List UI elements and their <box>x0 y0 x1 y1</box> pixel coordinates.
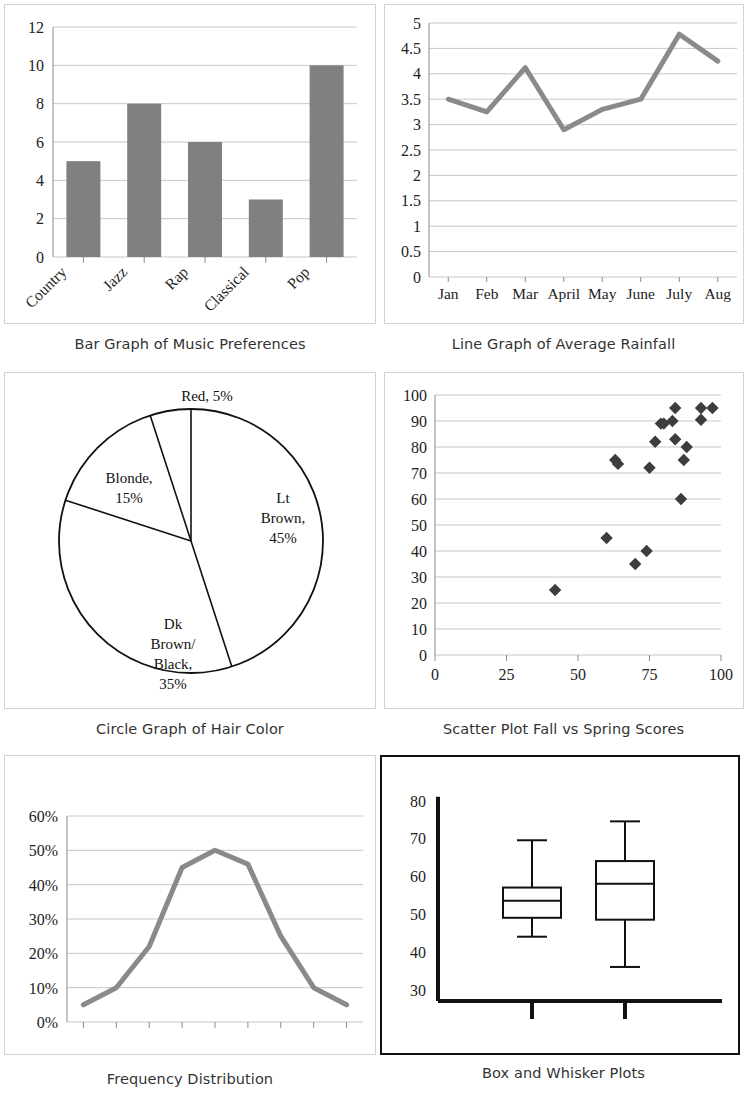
scatter-y-tick-label: 100 <box>403 387 427 404</box>
scatter-point <box>643 462 655 474</box>
bar-category-label: Jazz <box>99 263 130 294</box>
bar-chart-caption: Bar Graph of Music Preferences <box>0 336 380 352</box>
pie-chart-panel: LtBrown,45%DkBrown/Black,35%Blonde,15%Re… <box>4 372 376 709</box>
bar-rect <box>310 65 344 257</box>
boxplot-svg: 304050607080 <box>382 757 738 1053</box>
line-x-tick-label: July <box>666 285 692 302</box>
boxplot-y-tick-label: 30 <box>410 982 426 999</box>
line-y-tick-label: 0.5 <box>401 243 421 260</box>
frequency-y-tick-label: 60% <box>29 808 58 825</box>
bar-y-tick-label: 4 <box>36 172 44 189</box>
line-y-tick-label: 0 <box>413 269 421 286</box>
scatter-point <box>549 584 561 596</box>
pie-slice-label-line: Lt <box>276 490 290 506</box>
pie-slice-label-line: Red, 5% <box>181 388 233 404</box>
scatter-point <box>669 433 681 445</box>
frequency-series-path <box>83 850 346 1005</box>
scatter-point <box>678 454 690 466</box>
scatter-y-tick-label: 0 <box>419 647 427 664</box>
scatter-chart-svg: 01020304050607080901000255075100 <box>385 373 744 709</box>
cell-bar: 024681012CountryJazzRapClassicalPop Bar … <box>0 0 380 368</box>
frequency-chart-svg: 0%10%20%30%40%50%60% <box>5 756 376 1055</box>
scatter-point <box>695 402 707 414</box>
scatter-y-tick-label: 30 <box>411 569 427 586</box>
cell-boxplot: 304050607080 Box and Whisker Plots <box>380 753 747 1102</box>
boxplot-box <box>503 888 561 918</box>
scatter-point <box>629 558 641 570</box>
bar-y-tick-label: 0 <box>36 249 44 266</box>
frequency-y-tick-label: 0% <box>37 1014 58 1031</box>
bar-y-tick-label: 6 <box>36 134 44 151</box>
scatter-y-tick-label: 50 <box>411 517 427 534</box>
bar-y-tick-label: 8 <box>36 95 44 112</box>
scatter-x-tick-label: 75 <box>642 666 658 683</box>
cell-line: 00.511.522.533.544.55JanFebMarAprilMayJu… <box>380 0 747 368</box>
cell-scatter: 01020304050607080901000255075100 Scatter… <box>380 368 747 753</box>
pie-slice-label-line: Brown/ <box>151 636 197 652</box>
boxplot-caption: Box and Whisker Plots <box>380 1065 747 1081</box>
boxplot-box <box>596 861 654 920</box>
pie-slice-label-line: Brown, <box>261 510 306 526</box>
scatter-y-tick-label: 80 <box>411 439 427 456</box>
cell-pie: LtBrown,45%DkBrown/Black,35%Blonde,15%Re… <box>0 368 380 753</box>
frequency-y-tick-label: 10% <box>29 980 58 997</box>
bar-y-tick-label: 10 <box>28 57 44 74</box>
boxplot-y-tick-label: 50 <box>410 906 426 923</box>
line-y-tick-label: 5 <box>413 15 421 32</box>
scatter-y-tick-label: 10 <box>411 621 427 638</box>
scatter-point <box>649 436 661 448</box>
scatter-point <box>706 402 718 414</box>
frequency-y-tick-label: 30% <box>29 911 58 928</box>
bar-rect <box>127 104 161 257</box>
line-x-tick-label: Feb <box>475 285 499 302</box>
line-x-tick-label: Jan <box>438 285 459 302</box>
frequency-chart-caption: Frequency Distribution <box>0 1071 380 1087</box>
scatter-chart-caption: Scatter Plot Fall vs Spring Scores <box>380 721 747 737</box>
pie-slice-label-line: 15% <box>115 490 143 506</box>
line-y-tick-label: 2.5 <box>401 142 421 159</box>
bar-chart-panel: 024681012CountryJazzRapClassicalPop <box>4 4 376 324</box>
scatter-y-tick-label: 60 <box>411 491 427 508</box>
scatter-y-tick-label: 70 <box>411 465 427 482</box>
line-y-tick-label: 3 <box>413 116 421 133</box>
scatter-y-tick-label: 20 <box>411 595 427 612</box>
boxplot-y-tick-label: 70 <box>410 830 426 847</box>
scatter-x-tick-label: 25 <box>499 666 515 683</box>
bar-y-tick-label: 2 <box>36 210 44 227</box>
bar-chart-svg: 024681012CountryJazzRapClassicalPop <box>5 5 376 324</box>
boxplot-y-tick-label: 40 <box>410 944 426 961</box>
scatter-x-tick-label: 50 <box>570 666 586 683</box>
scatter-y-tick-label: 90 <box>411 413 427 430</box>
pie-slice-label-line: Dk <box>164 616 183 632</box>
scatter-point <box>640 545 652 557</box>
line-x-tick-label: Aug <box>704 285 731 302</box>
line-y-tick-label: 3.5 <box>401 91 421 108</box>
pie-slice-label-line: 35% <box>159 676 187 692</box>
bar-category-label: Rap <box>161 263 191 293</box>
scatter-chart-panel: 01020304050607080901000255075100 <box>384 372 744 709</box>
boxplot-y-tick-label: 60 <box>410 868 426 885</box>
scatter-x-tick-label: 100 <box>709 666 733 683</box>
bar-rect <box>249 200 283 258</box>
scatter-point <box>681 441 693 453</box>
pie-slice-label: Red, 5% <box>181 388 233 404</box>
scatter-point <box>600 532 612 544</box>
line-x-tick-label: Mar <box>512 285 539 302</box>
frequency-chart-panel: 0%10%20%30%40%50%60% <box>4 755 376 1055</box>
frequency-y-tick-label: 40% <box>29 877 58 894</box>
bar-category-label: Pop <box>284 263 313 292</box>
line-chart-svg: 00.511.522.533.544.55JanFebMarAprilMayJu… <box>385 5 744 324</box>
line-y-tick-label: 1.5 <box>401 192 421 209</box>
line-y-tick-label: 2 <box>413 167 421 184</box>
frequency-y-tick-label: 20% <box>29 945 58 962</box>
scatter-x-tick-label: 0 <box>431 666 439 683</box>
pie-slice-label-line: Black, <box>154 656 193 672</box>
pie-slice-label-line: Blonde, <box>105 470 152 486</box>
line-y-tick-label: 1 <box>413 218 421 235</box>
frequency-y-tick-label: 50% <box>29 842 58 859</box>
line-y-tick-label: 4.5 <box>401 40 421 57</box>
scatter-y-tick-label: 40 <box>411 543 427 560</box>
scatter-point <box>669 402 681 414</box>
scatter-point <box>695 414 707 426</box>
line-chart-caption: Line Graph of Average Rainfall <box>380 336 747 352</box>
